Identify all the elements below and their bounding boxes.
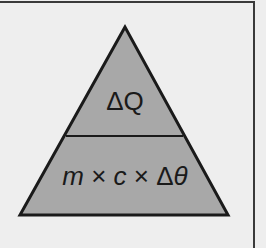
delta-symbol: Δ: [106, 86, 123, 116]
times-operator: ×: [127, 161, 157, 191]
delta-symbol: Δ: [156, 161, 173, 191]
times-operator: ×: [84, 161, 114, 191]
diagram-canvas: ΔQ m × c × Δθ: [0, 0, 266, 248]
q-symbol: Q: [124, 86, 144, 116]
theta-symbol: θ: [174, 161, 188, 191]
specific-heat-symbol: c: [114, 161, 127, 191]
formula-triangle: [0, 0, 266, 248]
mass-symbol: m: [62, 161, 84, 191]
heat-energy-label: ΔQ: [95, 86, 155, 116]
mass-capacity-temperature-label: m × c × Δθ: [40, 161, 210, 191]
